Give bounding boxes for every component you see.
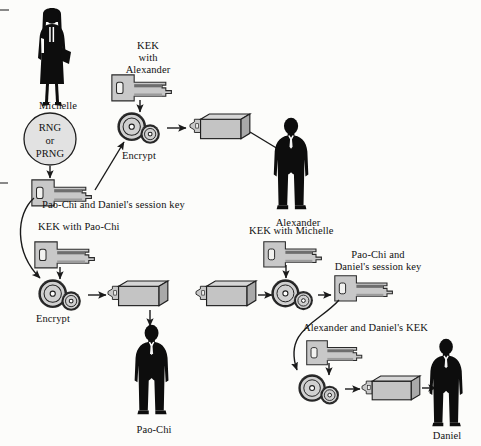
rng-line3: PRNG (24, 147, 76, 160)
kek-alexander-line1: KEK (110, 40, 186, 52)
rng-line1: RNG (24, 121, 76, 134)
ciphertext-box-from-michelle (196, 281, 256, 306)
ciphertext-box-to-paochi (108, 281, 168, 306)
ciphertext-box-to-alexander (190, 114, 250, 139)
ciphertext-box-to-daniel (362, 376, 420, 400)
key-label-kek-with-paochi: KEK with Pao-Chi (38, 221, 120, 233)
person-label-daniel: Daniel (414, 430, 480, 442)
rng-line2: or (24, 134, 76, 147)
person-michelle-figure (38, 8, 71, 106)
arrow-sessionkey-to-encrypt-top (95, 142, 124, 190)
gear-decrypt-middle (271, 279, 313, 310)
person-alexander-figure (274, 118, 309, 209)
kek-alexander-line2: with (110, 52, 186, 64)
session-key-2-line2: Daniel's session key (322, 261, 434, 273)
operation-label-encrypt-bottom: Encrypt (36, 313, 70, 325)
key-alexander-daniel-kek (307, 341, 362, 365)
key-distribution-diagram: KEK with Alexander RNG or PRNG Michelle … (0, 0, 481, 446)
key-label-kek-with-michelle: KEK with Michelle (249, 225, 334, 237)
gear-encrypt-bottom (38, 279, 81, 310)
key-label-kek-with-alexander: KEK with Alexander (110, 40, 186, 76)
key-label-session-key-1: Pao-Chi and Daniel's session key (42, 199, 185, 211)
key-kek-with-paochi (35, 242, 95, 268)
key-label-alexander-daniel-kek: Alexander and Daniel's KEK (303, 322, 428, 334)
key-label-session-key-2: Pao-Chi and Daniel's session key (322, 249, 434, 273)
key-kek-with-alexander (112, 75, 172, 101)
gear-encrypt-top (117, 112, 160, 143)
person-daniel-figure (430, 339, 463, 426)
session-key-2-line1: Pao-Chi and (322, 249, 434, 261)
key-kek-with-michelle (264, 242, 322, 267)
rng-prng-label: RNG or PRNG (24, 121, 76, 160)
operation-label-encrypt-top: Encrypt (122, 150, 156, 162)
person-paochi-figure (135, 325, 169, 414)
key-session-key-2 (335, 276, 393, 301)
kek-alexander-line3: Alexander (110, 64, 186, 76)
person-label-michelle: Michelle (22, 100, 94, 112)
person-label-paochi: Pao-Chi (118, 424, 190, 436)
gear-encrypt-daniel (298, 374, 339, 404)
